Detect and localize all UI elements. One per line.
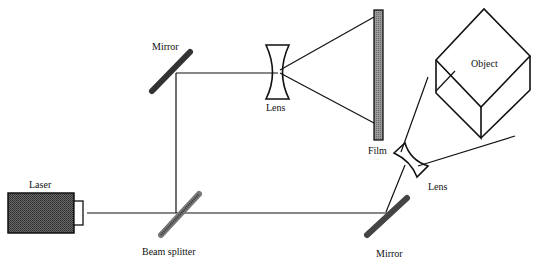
laser-label: Laser: [29, 179, 52, 190]
film-label: Film: [368, 145, 387, 156]
lens-top: [266, 45, 289, 99]
object-pointer-line: [436, 71, 455, 91]
reference-cone-bottom: [280, 73, 374, 123]
film: [374, 10, 383, 140]
object-beam-to-film: [401, 77, 428, 152]
object-label: Object: [471, 58, 498, 69]
laser: [8, 193, 83, 233]
mirror-top: [152, 52, 190, 91]
beam-splitter-label: Beam splitter: [142, 246, 196, 257]
mirror-bottom: [367, 198, 407, 235]
object-beam-to-cube: [418, 136, 515, 166]
reference-cone-top: [280, 17, 374, 70]
object-cube: [436, 9, 530, 138]
mirror-top-label: Mirror: [152, 41, 179, 52]
laser-aperture: [74, 201, 83, 225]
lens-top-label: Lens: [266, 102, 286, 113]
lens-right: [394, 143, 428, 177]
lens-right-label: Lens: [428, 181, 448, 192]
mirror-bottom-label: Mirror: [376, 248, 403, 259]
holography-diagram: Laser Beam splitter Mirror Lens Film Mir…: [0, 0, 536, 261]
laser-body: [8, 193, 74, 233]
